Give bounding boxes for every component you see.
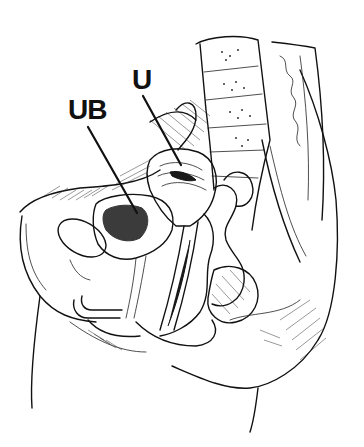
bladder-pointer-line [88,127,137,213]
label-urinary-bladder: UB [68,96,106,124]
anatomy-drawing [0,0,364,447]
label-uterus: U [132,66,151,94]
pelvis-sagittal-illustration: U UB [0,0,364,447]
